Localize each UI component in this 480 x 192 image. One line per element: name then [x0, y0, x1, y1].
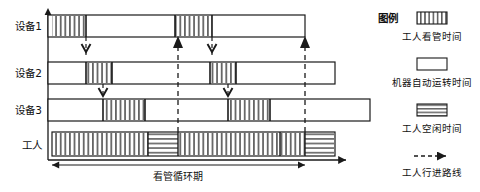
legend-swatch-vertical-hatch	[417, 12, 447, 24]
arrow-up-icon	[173, 36, 183, 48]
segment-tending	[280, 133, 305, 155]
legend-swatch-horizontal-hatch	[417, 104, 447, 116]
legend-item-idle: 工人空闲时间	[402, 104, 462, 134]
segment-tending	[228, 100, 270, 120]
segment-tending	[86, 63, 112, 83]
legend-item-travel: 工人行进路线	[402, 156, 462, 178]
segment-tending	[103, 100, 145, 120]
legend-label-idle: 工人空闲时间	[402, 123, 462, 134]
row-label-equipment-2: 设备2	[15, 67, 42, 79]
legend-label-travel: 工人行进路线	[402, 167, 462, 178]
legend-swatch-empty-box	[417, 58, 447, 70]
segment-tending	[210, 63, 236, 83]
cycle-period-label: 看管循环期	[153, 170, 203, 182]
gantt-chart-diagram: 设备1 设备2 设备3 工人 看管循环期 图例 工人看管时间 机器自动运转时间 …	[0, 0, 480, 192]
segment-tending	[52, 16, 86, 36]
segment-idle	[305, 133, 334, 155]
legend-item-tending: 工人看管时间	[402, 12, 462, 42]
row-worker	[52, 132, 335, 156]
legend-label-auto: 机器自动运转时间	[392, 77, 472, 88]
legend-title: 图例	[378, 12, 398, 24]
row-equipment-1	[48, 15, 305, 37]
row-equipment-3	[48, 99, 370, 121]
legend-item-auto: 机器自动运转时间	[392, 58, 472, 88]
arrow-up-icon	[300, 36, 310, 48]
legend-label-tending: 工人看管时间	[402, 31, 462, 42]
legend: 图例 工人看管时间 机器自动运转时间 工人空闲时间 工人行进路线	[378, 12, 472, 178]
segment-tending	[178, 133, 280, 155]
row-label-equipment-1: 设备1	[15, 20, 42, 32]
row-label-worker: 工人	[22, 139, 43, 151]
segment-tending	[53, 133, 148, 155]
row-equipment-2	[48, 62, 335, 84]
segment-idle	[148, 133, 178, 155]
segment-tending	[175, 16, 212, 36]
row-label-equipment-3: 设备3	[15, 104, 42, 116]
